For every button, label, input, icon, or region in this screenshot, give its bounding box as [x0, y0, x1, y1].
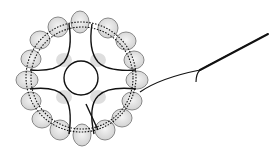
tatting-diagram [0, 0, 276, 149]
motif-svg [0, 0, 276, 149]
picot-ovals [16, 11, 148, 146]
needle-thread [140, 34, 268, 92]
